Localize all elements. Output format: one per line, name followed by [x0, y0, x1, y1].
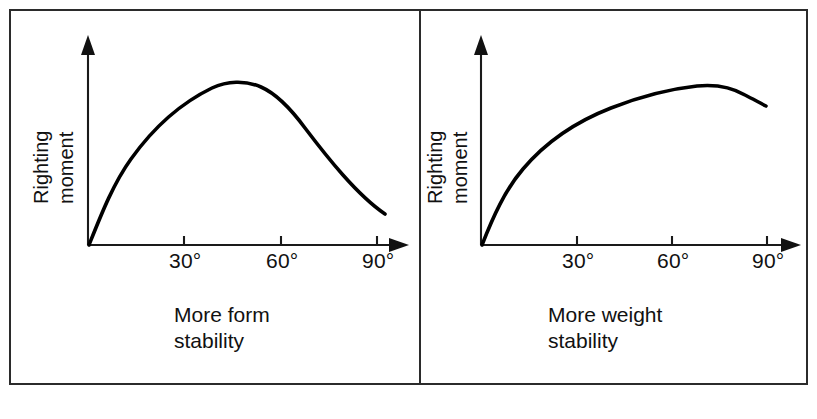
caption-line2-left: stability	[174, 328, 270, 354]
y-axis-arrow-left	[81, 35, 95, 55]
caption-line1-right: More weight	[548, 302, 662, 328]
curve-form-stability	[89, 82, 385, 245]
y-axis-label-line1-right: Righting	[423, 131, 448, 204]
x-tick-label-90-right: 90°	[752, 249, 784, 273]
caption-line2-right: stability	[548, 328, 662, 354]
y-axis-label-line1-left: Righting	[29, 131, 54, 204]
figure-root: 30° 60° 90° Righting moment More form st…	[0, 0, 817, 419]
caption-line1-left: More form	[174, 302, 270, 328]
panel-weight-stability: 30° 60° 90° Righting moment More weight …	[421, 9, 808, 385]
x-tick-label-30-left: 30°	[169, 249, 201, 273]
y-axis-label-left: Righting moment	[29, 131, 79, 204]
y-axis-label-right: Righting moment	[423, 131, 473, 204]
caption-form-stability: More form stability	[174, 302, 270, 354]
y-axis-label-line2-left: moment	[54, 131, 79, 204]
x-tick-label-60-left: 60°	[266, 249, 298, 273]
panel-form-stability: 30° 60° 90° Righting moment More form st…	[9, 9, 419, 385]
x-tick-label-60-right: 60°	[657, 249, 689, 273]
x-tick-label-30-right: 30°	[562, 249, 594, 273]
curve-weight-stability	[482, 85, 766, 245]
x-tick-label-90-left: 90°	[362, 249, 394, 273]
y-axis-label-line2-right: moment	[448, 131, 473, 204]
y-axis-arrow-right	[474, 35, 488, 55]
caption-weight-stability: More weight stability	[548, 302, 662, 354]
